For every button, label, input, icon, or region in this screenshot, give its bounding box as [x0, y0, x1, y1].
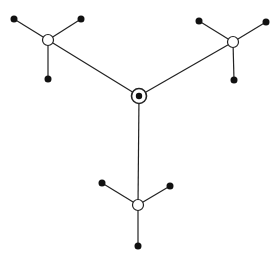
leaf-node — [11, 16, 18, 23]
tree-graph — [0, 0, 280, 257]
root-node-dot — [136, 93, 142, 99]
hub-node — [43, 35, 54, 46]
leaf-node — [135, 243, 142, 250]
nodes-layer — [11, 16, 270, 250]
edge-hub-bottom-leaf-bottom-1 — [102, 183, 138, 205]
edges-layer — [14, 19, 266, 246]
edge-root-hub-left — [48, 40, 139, 96]
leaf-node — [45, 76, 52, 83]
leaf-node — [263, 19, 270, 26]
leaf-node — [196, 18, 203, 25]
network-diagram — [0, 0, 280, 257]
edge-root-hub-right — [139, 42, 233, 96]
edge-root-hub-bottom — [138, 96, 139, 205]
hub-node — [228, 37, 239, 48]
leaf-node — [231, 77, 238, 84]
hub-node — [133, 200, 144, 211]
leaf-node — [167, 183, 174, 190]
leaf-node — [99, 180, 106, 187]
leaf-node — [78, 16, 85, 23]
